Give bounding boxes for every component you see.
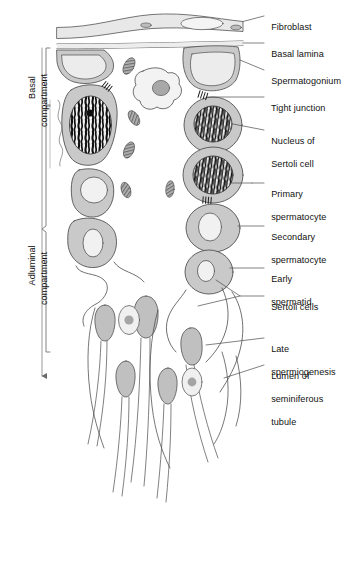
basal-compartment-label-2: compartment <box>28 74 50 132</box>
callout-nucleus-sertoli: Nucleus of Sertoli cell <box>266 125 315 171</box>
adluminal-compartment-bracket <box>42 106 50 352</box>
sertoli-border-left <box>58 100 63 166</box>
callout-secondary-spermatocyte: Secondary spermatocyte <box>266 221 326 267</box>
sertoli-cell-left <box>62 85 117 165</box>
callout-fibroblast: Fibroblast <box>266 11 312 34</box>
adluminal-compartment-label-2: compartment <box>28 252 50 310</box>
spermatid-left-lower <box>68 218 117 267</box>
primary-spermatocyte-lower <box>183 147 243 203</box>
sertoli-nucleus-left <box>70 96 112 154</box>
callout-tight-junction: Tight junction <box>266 92 325 115</box>
primary-spermatocyte-upper <box>184 97 242 153</box>
callout-basal-lamina: Basal lamina <box>266 38 324 61</box>
spermatocyte-left-upper <box>71 169 114 217</box>
early-spermatid <box>185 250 233 294</box>
spermatozoa <box>88 296 218 502</box>
fibroblast-cell <box>57 14 243 39</box>
callout-primary-spermatocyte: Primary spermatocyte <box>266 178 326 224</box>
primary-spermatocyte-nucleus-upper <box>194 106 232 142</box>
spermatogonium-center <box>133 68 181 109</box>
spermatogonium-right <box>183 46 240 91</box>
spermatogonium-left <box>57 50 114 84</box>
primary-spermatocyte-nucleus-lower <box>193 156 233 194</box>
callout-sertoli-cells: Sertoli cells <box>266 291 318 314</box>
callout-spermatogonium: Spermatogonium <box>266 65 341 88</box>
secondary-spermatocyte <box>186 204 240 252</box>
callout-lumen: Lumen of seminiferous tubule <box>266 360 323 428</box>
